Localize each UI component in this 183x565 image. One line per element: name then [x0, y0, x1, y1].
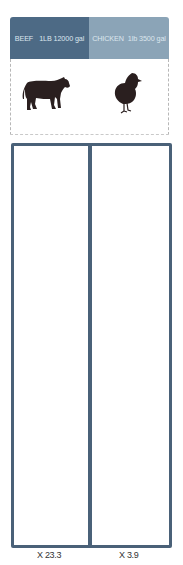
chicken-water-amount: 1lb 3500 gal [128, 34, 166, 43]
chick-icon [112, 71, 144, 115]
chicken-header: CHICKEN 1lb 3500 gal [89, 17, 169, 59]
beef-header: BEEF 1LB 12000 gal [10, 17, 89, 59]
chicken-water-grid [92, 146, 169, 545]
chicken-label: CHICKEN [92, 34, 124, 43]
beef-label: BEEF [15, 34, 33, 43]
cow-icon [21, 77, 71, 111]
water-usage-grid [11, 143, 172, 548]
beef-water-grid [14, 146, 88, 545]
beef-multiplier: X 23.3 [37, 550, 61, 560]
comparison-header: BEEF 1LB 12000 gal CHICKEN 1lb 3500 gal [10, 17, 169, 59]
beef-water-amount: 1LB 12000 gal [39, 34, 84, 43]
chicken-multiplier: X 3.9 [119, 550, 139, 560]
animal-illustrations [10, 59, 169, 135]
